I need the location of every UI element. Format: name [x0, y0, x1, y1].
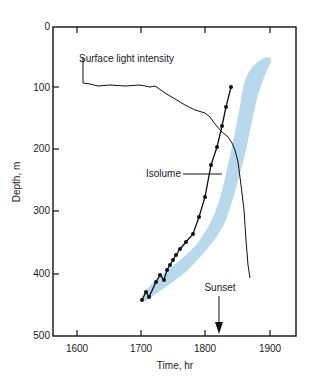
x-tick-label: 1600 — [66, 343, 89, 354]
surface-light-label: Surface light intensity — [79, 53, 174, 64]
x-tick-label: 1900 — [259, 343, 282, 354]
y-tick-label: 200 — [33, 143, 50, 154]
sunset-label: Sunset — [204, 282, 235, 293]
shaded-band — [141, 57, 271, 302]
x-tick-label: 1800 — [194, 343, 217, 354]
depth-time-chart: 1600 1700 1800 1900 0 100 200 300 400 50… — [0, 0, 311, 378]
x-ticks — [77, 27, 270, 336]
x-tick-label: 1700 — [130, 343, 153, 354]
y-tick-label: 400 — [33, 268, 50, 279]
y-tick-label: 500 — [33, 330, 50, 341]
y-axis-label: Depth, m — [11, 162, 22, 203]
y-tick-label: 300 — [33, 205, 50, 216]
isolume-label: Isolume — [146, 168, 181, 179]
y-tick-label: 0 — [44, 21, 50, 32]
x-axis-label: Time, hr — [157, 360, 194, 371]
sunset-arrowhead-icon — [215, 322, 223, 334]
y-tick-label: 100 — [33, 82, 50, 93]
y-ticks — [53, 87, 59, 274]
